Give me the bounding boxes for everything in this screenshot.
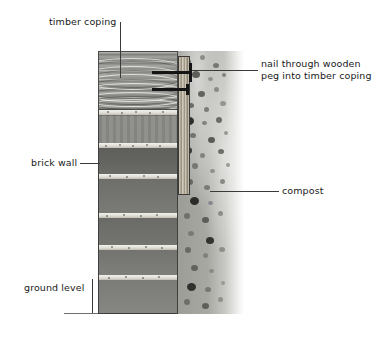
label-ground-level: ground level: [24, 282, 84, 295]
label-nail-line2: peg into timber coping: [261, 70, 372, 83]
label-timber-coping: timber coping: [49, 16, 116, 29]
label-brick-wall: brick wall: [31, 157, 77, 170]
label-nail-line1: nail through wooden: [261, 58, 361, 71]
label-compost: compost: [282, 185, 324, 198]
wall-cross-section-diagram: timber coping nail through wooden peg in…: [0, 0, 383, 338]
